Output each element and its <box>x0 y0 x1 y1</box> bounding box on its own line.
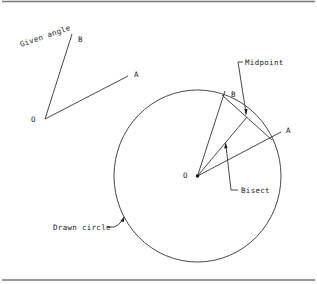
construction: Midpoint Bisect Drawn circle O B A <box>53 58 291 262</box>
bisect-label: Bisect <box>241 186 270 195</box>
given-angle: Given angle O B A <box>19 23 139 124</box>
center-point <box>196 174 200 178</box>
angle-bisection-diagram: Given angle O B A Midpoint Bisect Drawn … <box>0 0 317 284</box>
point-a-label: A <box>286 126 291 135</box>
given-a-label: A <box>134 70 139 79</box>
bisect-leader <box>226 146 238 190</box>
midpoint-label: Midpoint <box>245 58 284 67</box>
given-angle-caption: Given angle <box>19 23 72 49</box>
bisector-line <box>198 117 248 176</box>
drawn-circle-label: Drawn circle <box>53 223 111 232</box>
given-ray-oa <box>45 76 128 119</box>
center-label: O <box>183 171 188 180</box>
given-b-label: B <box>78 35 83 44</box>
midpoint-leader <box>238 62 246 113</box>
given-ray-ob <box>45 34 72 119</box>
point-b-label: B <box>231 90 236 99</box>
given-vertex-label: O <box>31 115 36 124</box>
